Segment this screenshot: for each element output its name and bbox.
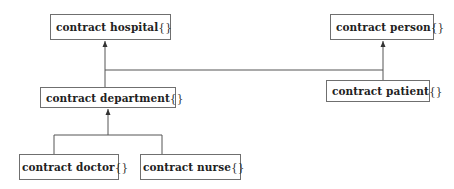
node-hospital-name: hospital <box>110 21 158 33</box>
node-department: contract department{} <box>40 87 176 108</box>
node-person-braces: {} <box>431 21 445 33</box>
node-hospital-braces: {} <box>158 21 172 33</box>
node-person-keyword: contract <box>336 21 386 33</box>
arrowhead-hospital-icon <box>103 41 108 47</box>
node-nurse-braces: {} <box>231 161 245 173</box>
node-doctor: contract doctor{} <box>19 154 119 180</box>
node-department-name: department <box>100 92 170 104</box>
node-doctor-braces: {} <box>115 161 129 173</box>
node-patient-name: patient <box>386 85 429 97</box>
node-nurse: contract nurse{} <box>140 154 241 180</box>
node-doctor-keyword: contract <box>22 161 72 173</box>
node-patient-braces: {} <box>429 85 443 97</box>
node-doctor-name: doctor <box>76 161 115 173</box>
node-nurse-name: nurse <box>197 161 231 173</box>
node-department-braces: {} <box>170 92 184 104</box>
node-person: contract person{} <box>330 14 434 40</box>
arrowhead-person-icon <box>381 41 386 47</box>
node-patient: contract patient{} <box>326 80 430 102</box>
node-patient-keyword: contract <box>332 85 382 97</box>
node-hospital-keyword: contract <box>56 21 106 33</box>
arrowhead-department-icon <box>106 109 111 115</box>
node-nurse-keyword: contract <box>143 161 193 173</box>
inheritance-diagram: contract hospital{} contract person{} co… <box>0 0 454 189</box>
node-hospital: contract hospital{} <box>50 14 171 40</box>
node-department-keyword: contract <box>46 92 96 104</box>
node-person-name: person <box>390 21 431 33</box>
